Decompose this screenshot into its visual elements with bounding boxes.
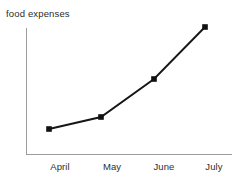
data-point-marker-may xyxy=(98,114,104,120)
data-point-marker-april xyxy=(46,126,52,132)
data-point-marker-july xyxy=(202,24,208,30)
food-expenses-line-chart: food expenses AprilMayJuneJuly xyxy=(0,0,243,179)
x-tick-label-july: July xyxy=(205,161,222,172)
x-tick-label-june: June xyxy=(153,161,174,172)
data-point-markers xyxy=(46,24,208,132)
data-point-marker-june xyxy=(151,76,157,82)
x-tick-label-may: May xyxy=(103,161,121,172)
chart-plot-area xyxy=(0,0,243,179)
data-series-line xyxy=(49,27,205,129)
x-tick-label-april: April xyxy=(50,161,70,172)
